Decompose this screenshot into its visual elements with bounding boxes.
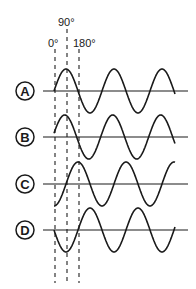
wave-row-b: B [16,115,188,159]
wave-label-a: A [20,84,30,99]
wave-label-d: D [20,223,29,238]
wave-row-a: A [16,69,188,113]
waveforms: ABCD [16,69,188,252]
phase-reference-lines [55,29,79,283]
angle-labels: 0°90°180° [48,16,96,49]
wave-label-c: C [20,177,30,192]
wave-label-b: B [20,130,29,145]
angle-label-0deg: 0° [48,37,59,49]
angle-label-90deg: 90° [58,16,75,28]
angle-label-180deg: 180° [73,37,96,49]
wave-row-d: D [16,208,188,252]
wave-row-c: C [16,162,188,206]
phase-diagram: 0°90°180° ABCD [0,0,196,289]
